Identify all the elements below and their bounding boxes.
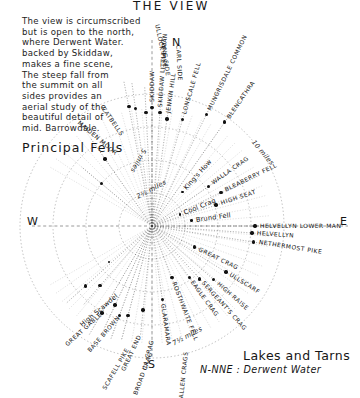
lakes-and-tarns-entry: N-NNE : Derwent Water [200,364,321,375]
place-marker-brund-fell [190,219,193,222]
fell-marker-great-crag [193,245,196,248]
fell-marker-glaramara [161,298,164,301]
fell-marker-eagle-crag [188,276,191,279]
fell-marker-bleaberry-fell [219,191,222,194]
fell-marker-jenkin-hill [165,117,168,120]
lakes-and-tarns-heading: Lakes and Tarns [243,348,350,363]
fell-marker-catbells [103,157,106,160]
fell-marker-great-end [113,303,116,306]
fell-label-helvellyn-lower-man: HELVELLYN LOWER MAN [260,223,341,229]
fell-marker-helvellyn [250,231,253,234]
fell-marker-ullscarf [224,270,227,273]
fell-marker-helvellyn-lower-man [253,224,256,227]
fell-marker-ill-crag [126,314,129,317]
fell-label-skiddaw: SKIDDAW [149,70,155,102]
compass-west: W [27,215,38,228]
place-marker-cool-crag [179,213,182,216]
fell-marker-great-gable [84,284,87,287]
fell-marker-carl-side [144,111,147,114]
fell-marker-allen-crags [141,308,144,311]
fell-marker-skiddaw [150,106,153,109]
place-marker-king-s-how [181,191,184,194]
